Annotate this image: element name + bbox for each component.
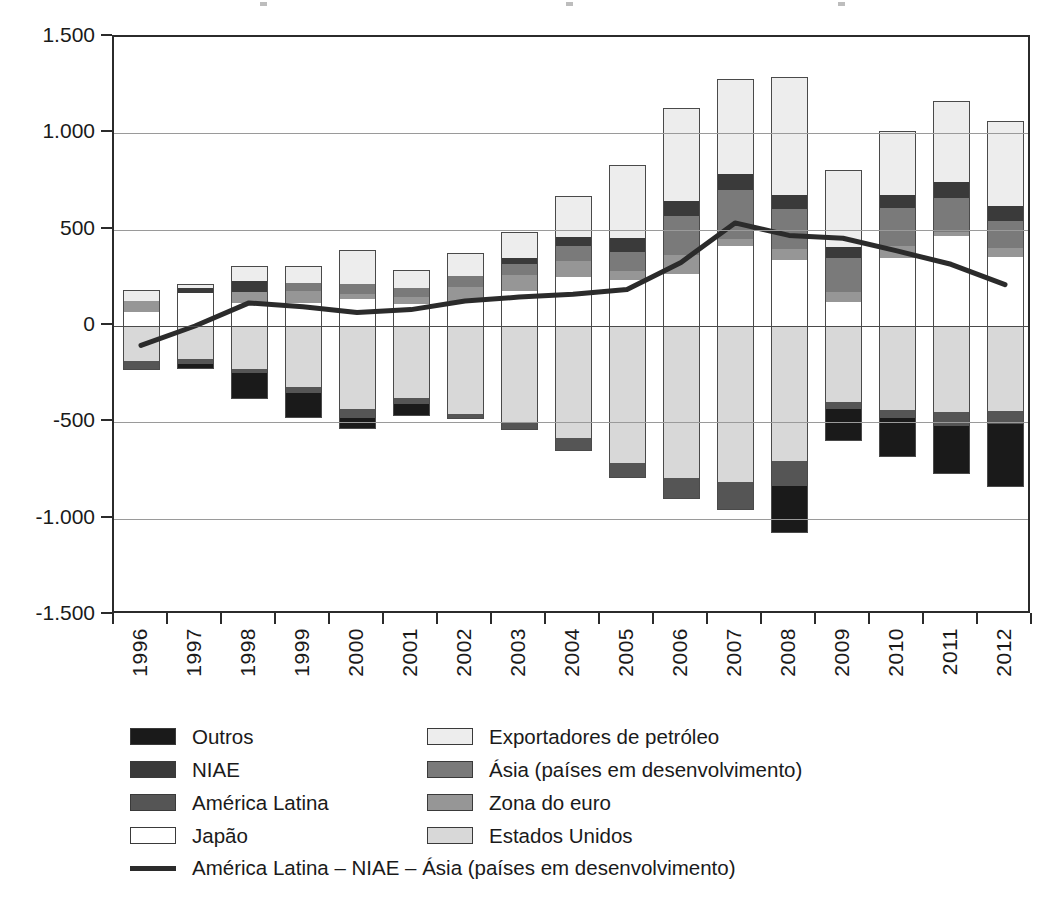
- x-axis-label-2010: 2010: [884, 628, 908, 677]
- legend-row[interactable]: Zona do euro: [427, 786, 802, 819]
- x-axis-label-1996: 1996: [128, 628, 152, 677]
- legend-swatch-outros: [130, 728, 176, 745]
- y-tick-label-500: 500: [60, 216, 95, 240]
- x-axis-label-2007: 2007: [722, 628, 746, 677]
- legend-label-line-series: América Latina – NIAE – Ásia (países em …: [192, 856, 736, 880]
- x-axis-label-2011: 2011: [938, 628, 962, 675]
- gridline-1000: [114, 133, 1028, 134]
- y-tick-mark-0: [101, 323, 112, 325]
- x-axis-label-1997: 1997: [182, 628, 206, 677]
- x-tick-mark: [652, 613, 654, 624]
- x-tick-mark: [868, 613, 870, 624]
- x-axis-label-2006: 2006: [668, 628, 692, 677]
- x-tick-mark: [490, 613, 492, 624]
- legend-row[interactable]: Outros: [130, 720, 329, 753]
- x-tick-mark: [220, 613, 222, 624]
- y-tick-label-1500: 1.500: [42, 23, 95, 47]
- y-tick-mark--500: [101, 419, 112, 421]
- legend-label: Exportadores de petróleo: [489, 725, 719, 749]
- x-tick-mark: [760, 613, 762, 624]
- x-axis-label-2003: 2003: [506, 628, 530, 677]
- chart-page: 1.5001.0005000-500-1.000-1.500 199619971…: [0, 0, 1046, 914]
- gridline--1000: [114, 519, 1028, 520]
- x-tick-mark: [112, 613, 114, 624]
- legend-row[interactable]: Japão: [130, 819, 329, 852]
- plot-area-wrapper: 1.5001.0005000-500-1.000-1.500: [0, 0, 1046, 640]
- x-axis-label-1998: 1998: [236, 628, 260, 677]
- y-tick-label--1500: -1.500: [35, 601, 95, 625]
- legend-swatch-japao: [130, 827, 176, 844]
- x-tick-mark: [976, 613, 978, 624]
- x-tick-mark: [166, 613, 168, 624]
- x-axis-label-2000: 2000: [344, 628, 368, 677]
- x-axis-labels: 1996199719981999200020012002200320042005…: [112, 628, 1030, 718]
- legend-row-line-series: América Latina – NIAE – Ásia (países em …: [130, 856, 736, 880]
- y-tick-label-1000: 1.000: [42, 119, 95, 143]
- y-tick-label--1000: -1.000: [35, 505, 95, 529]
- legend-column-left: OutrosNIAEAmérica LatinaJapão: [130, 720, 329, 852]
- gridline-500: [114, 230, 1028, 231]
- legend-row[interactable]: Estados Unidos: [427, 819, 802, 852]
- y-tick-mark--1000: [101, 516, 112, 518]
- x-axis-label-1999: 1999: [290, 628, 314, 677]
- y-tick-mark-1000: [101, 130, 112, 132]
- legend-label: Estados Unidos: [489, 824, 633, 848]
- legend-swatch-estados-unidos: [427, 827, 473, 844]
- legend-column-right: Exportadores de petróleoÁsia (países em …: [427, 720, 802, 852]
- gridline--500: [114, 422, 1028, 423]
- x-tick-mark: [328, 613, 330, 624]
- legend-swatch-asia: [427, 761, 473, 778]
- legend-row[interactable]: Ásia (países em desenvolvimento): [427, 753, 802, 786]
- y-tick-label--500: -500: [53, 408, 95, 432]
- legend-swatch-exportadores: [427, 728, 473, 745]
- x-axis-label-2001: 2001: [398, 628, 422, 677]
- x-tick-mark: [382, 613, 384, 624]
- x-axis-label-2012: 2012: [992, 628, 1016, 677]
- x-tick-mark: [1030, 613, 1032, 624]
- legend-row[interactable]: América Latina: [130, 786, 329, 819]
- legend-label: Ásia (países em desenvolvimento): [489, 758, 802, 782]
- chart-legend: OutrosNIAEAmérica LatinaJapão Exportador…: [112, 720, 1012, 900]
- x-tick-mark: [922, 613, 924, 624]
- y-tick-mark-500: [101, 227, 112, 229]
- y-tick-label-0: 0: [83, 312, 95, 336]
- x-axis-label-2008: 2008: [776, 628, 800, 677]
- x-axis-label-2002: 2002: [452, 628, 476, 677]
- x-axis-label-2004: 2004: [560, 628, 584, 677]
- x-tick-mark: [544, 613, 546, 624]
- x-tick-mark: [436, 613, 438, 624]
- gridline-0: [114, 326, 1028, 327]
- x-tick-mark: [274, 613, 276, 624]
- x-axis-label-2005: 2005: [614, 628, 638, 677]
- legend-label: NIAE: [192, 758, 240, 782]
- plot-frame: [112, 35, 1030, 613]
- legend-row[interactable]: NIAE: [130, 753, 329, 786]
- x-tick-mark: [814, 613, 816, 624]
- x-axis-ticks: [112, 613, 1030, 625]
- legend-swatch-zona-euro: [427, 794, 473, 811]
- y-tick-mark-1500: [101, 34, 112, 36]
- legend-label: Outros: [192, 725, 254, 749]
- legend-swatch-niae: [130, 761, 176, 778]
- legend-swatch-america-latina: [130, 794, 176, 811]
- x-tick-mark: [598, 613, 600, 624]
- legend-swatch-line: [130, 866, 176, 871]
- legend-label: Japão: [192, 824, 248, 848]
- line-series-layer: [114, 37, 1028, 611]
- legend-label: Zona do euro: [489, 791, 611, 815]
- legend-row[interactable]: Exportadores de petróleo: [427, 720, 802, 753]
- legend-label: América Latina: [192, 791, 329, 815]
- y-tick-mark--1500: [101, 612, 112, 614]
- x-tick-mark: [706, 613, 708, 624]
- x-axis-label-2009: 2009: [830, 628, 854, 677]
